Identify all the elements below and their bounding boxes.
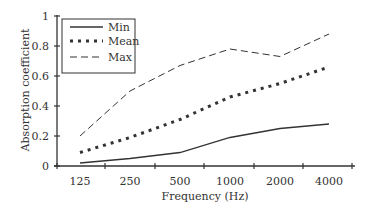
y-tick-label: 0.2 — [32, 130, 50, 143]
x-tick-label: 125 — [70, 175, 91, 188]
y-tick-label: 0 — [42, 160, 49, 173]
y-tick-label: 0.8 — [32, 40, 50, 53]
y-tick-label: 1 — [42, 10, 49, 23]
legend-label-max: Max — [108, 51, 133, 64]
legend: Min Mean Max — [62, 19, 139, 73]
legend-label-mean: Mean — [108, 35, 139, 48]
x-tick-label: 2000 — [266, 175, 294, 188]
y-axis-title: Absorption coefficient — [19, 28, 32, 153]
x-tick-label: 4000 — [315, 175, 343, 188]
legend-label-min: Min — [108, 21, 130, 34]
x-tick-label: 1000 — [216, 175, 244, 188]
y-tick-label: 0.4 — [32, 100, 50, 113]
x-tick-label: 500 — [170, 175, 191, 188]
x-tick-label: 250 — [120, 175, 141, 188]
series-line-min — [80, 124, 329, 163]
x-axis-title: Frequency (Hz) — [162, 190, 249, 203]
y-tick-label: 0.6 — [32, 70, 50, 83]
series-line-mean — [80, 67, 329, 153]
chart: 00.20.40.60.81 125250500100020004000 Abs… — [0, 0, 371, 212]
